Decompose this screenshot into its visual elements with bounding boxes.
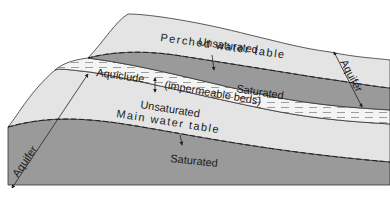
aquifer-diagram: Unsaturated Perched water table Saturate… (0, 0, 390, 200)
